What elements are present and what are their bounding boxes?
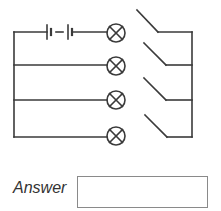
lamp-icon: [107, 57, 125, 75]
switch-icon: [137, 10, 192, 32]
branch-2: [14, 43, 192, 75]
switch-icon: [145, 115, 192, 137]
circuit-diagram: [0, 0, 221, 160]
switch-icon: [144, 78, 192, 100]
branch-4: [14, 115, 192, 145]
lamp-icon: [107, 24, 125, 42]
branch-3: [14, 78, 192, 109]
branch-1: [14, 10, 192, 42]
battery-icon: [47, 25, 72, 39]
lamp-icon: [107, 127, 125, 145]
answer-input[interactable]: [77, 176, 208, 208]
answer-label: Answer: [13, 178, 66, 198]
switch-icon: [144, 43, 192, 65]
lamp-icon: [107, 91, 125, 109]
